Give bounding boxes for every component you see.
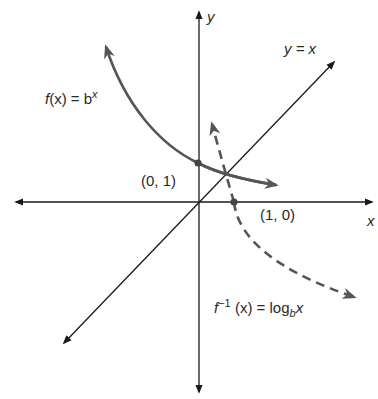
exponential-label: f(x) = bx xyxy=(45,88,98,107)
point-0-1 xyxy=(194,159,201,166)
y-axis-label: y xyxy=(206,8,216,25)
logarithm-curve-upper xyxy=(212,124,234,202)
point-0-1-label: (0, 1) xyxy=(141,172,176,189)
x-axis-label: x xyxy=(366,212,375,229)
identity-label: y = x xyxy=(283,40,317,57)
exponential-arrowhead-right xyxy=(198,163,276,185)
exponential-curve xyxy=(106,47,276,185)
point-1-0-label: (1, 0) xyxy=(260,206,295,223)
logarithm-label: f−1 (x) = logbx xyxy=(214,297,304,319)
inverse-functions-diagram: y x y = x f(x) = bx (0, 1) (1, 0) f−1 (x… xyxy=(0,0,378,399)
point-1-0 xyxy=(230,198,237,205)
